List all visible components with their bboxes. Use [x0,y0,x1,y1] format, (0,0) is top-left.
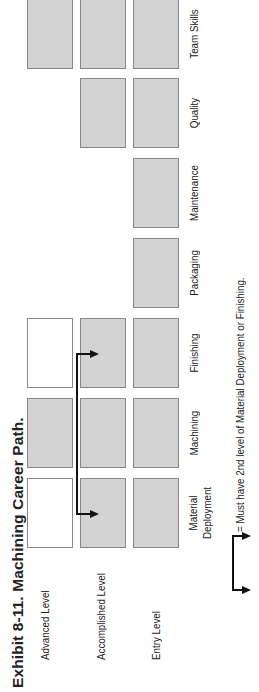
exhibit-page: Exhibit 8-11. Machining Career Path. Adv… [0,0,259,692]
prerequisite-arrow-icon [0,0,259,692]
legend-text: = Must have 2nd level of Material Deploy… [234,277,246,532]
